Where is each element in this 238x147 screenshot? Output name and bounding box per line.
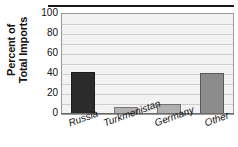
plot-area: [61, 13, 234, 115]
bar-slot: [190, 14, 233, 114]
x-axis-ticks: RussiaTurkmenistanGermanyOther: [61, 114, 232, 147]
chart-title: [48, 0, 234, 4]
bar-chart: Percent of Total Imports 100806040200 Ru…: [0, 0, 238, 147]
y-tick-label: 40: [26, 68, 58, 78]
y-axis-ticks: 100806040200: [26, 13, 58, 113]
y-tick-label: 0: [26, 108, 58, 118]
bar-slot: [62, 14, 105, 114]
y-tick-label: 60: [26, 48, 58, 58]
title-divider: [48, 5, 234, 7]
bar-slot: [105, 14, 148, 114]
y-tick-label: 100: [26, 8, 58, 18]
bar-series: [62, 14, 233, 114]
bar-other: [200, 73, 224, 114]
y-tick-label: 20: [26, 88, 58, 98]
y-axis-title-line1: Percent of: [5, 0, 17, 105]
y-tick-label: 80: [26, 28, 58, 38]
